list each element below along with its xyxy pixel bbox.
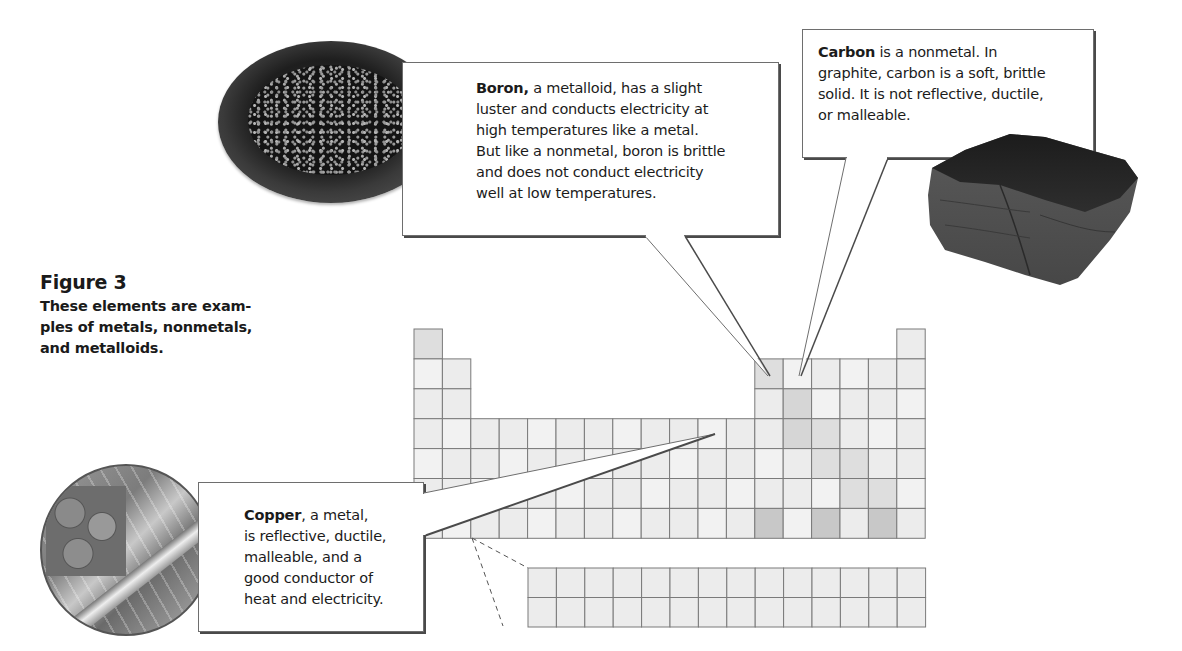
text-line: , a metal, bbox=[301, 507, 368, 523]
text-line: is reflective, ductile, bbox=[244, 528, 386, 544]
text-line: heat and electricity. bbox=[244, 591, 383, 607]
text-line: malleable, and a bbox=[244, 549, 362, 565]
copper-text: Copper, a metal, is reflective, ductile,… bbox=[244, 505, 424, 610]
copper-pointer bbox=[0, 0, 1182, 651]
copper-label: Copper bbox=[244, 507, 301, 523]
text-line: good conductor of bbox=[244, 570, 373, 586]
